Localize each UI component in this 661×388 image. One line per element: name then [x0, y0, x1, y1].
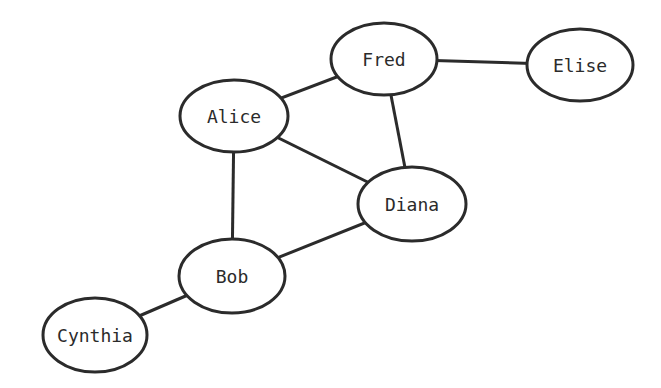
node-label: Bob [216, 266, 249, 287]
node-alice: Alice [180, 80, 288, 152]
node-elise: Elise [527, 29, 633, 101]
node-label: Diana [385, 194, 439, 215]
graph-nodes: AliceFredEliseDianaBobCynthia [43, 23, 633, 372]
node-label: Fred [362, 49, 405, 70]
node-fred: Fred [331, 23, 437, 95]
node-label: Alice [207, 106, 261, 127]
node-label: Elise [553, 55, 607, 76]
node-diana: Diana [358, 167, 466, 241]
node-bob: Bob [179, 239, 285, 313]
graph-edges [95, 59, 580, 335]
node-cynthia: Cynthia [43, 298, 147, 372]
social-graph-diagram: AliceFredEliseDianaBobCynthia [0, 0, 661, 388]
node-label: Cynthia [57, 325, 133, 346]
